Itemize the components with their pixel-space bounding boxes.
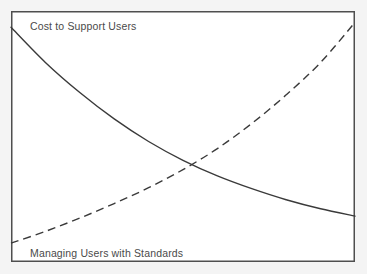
figure-root: Cost to Support Users Managing Users wit… [0, 0, 367, 274]
chart-canvas [0, 0, 367, 274]
curve-label-managing-users-with-standards: Managing Users with Standards [30, 247, 183, 260]
plot-frame [12, 12, 355, 262]
curve-label-cost-to-support-users: Cost to Support Users [30, 20, 136, 33]
